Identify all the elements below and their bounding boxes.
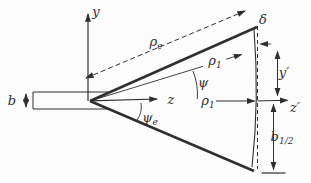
horn-upper-wall xyxy=(90,27,257,101)
psi-angle-arc xyxy=(193,71,198,99)
label-rho-1-axial: ρ1 xyxy=(201,94,214,107)
rho-1-slant-arrow xyxy=(226,55,242,60)
label-rho-e: ρe xyxy=(150,35,163,48)
rho-1-slant-line xyxy=(90,66,203,101)
horn-geometry-drawing xyxy=(0,0,311,183)
label-psi: ψ xyxy=(198,76,208,89)
z-axis-line xyxy=(90,99,157,101)
label-z-axis: z xyxy=(168,93,175,106)
label-rho-1-slant: ρ1 xyxy=(208,54,221,67)
z-prime-axis-line xyxy=(258,100,288,101)
label-z-prime: z′ xyxy=(290,101,300,114)
label-psi-e: ψe xyxy=(142,111,158,124)
label-y-prime: y′ xyxy=(279,66,289,79)
horn-geometry-figure: y z b ψe ψ ρe ρ1 ρ1 δ y′ z′ b1/2 xyxy=(0,0,311,183)
wavefront-arc xyxy=(252,29,256,167)
horn-lower-wall xyxy=(90,101,254,171)
label-b: b xyxy=(8,94,16,107)
psi-e-angle-arc xyxy=(137,103,142,121)
label-b-half: b1/2 xyxy=(271,130,294,143)
label-y-axis: y xyxy=(92,5,99,18)
label-delta: δ xyxy=(259,13,267,26)
